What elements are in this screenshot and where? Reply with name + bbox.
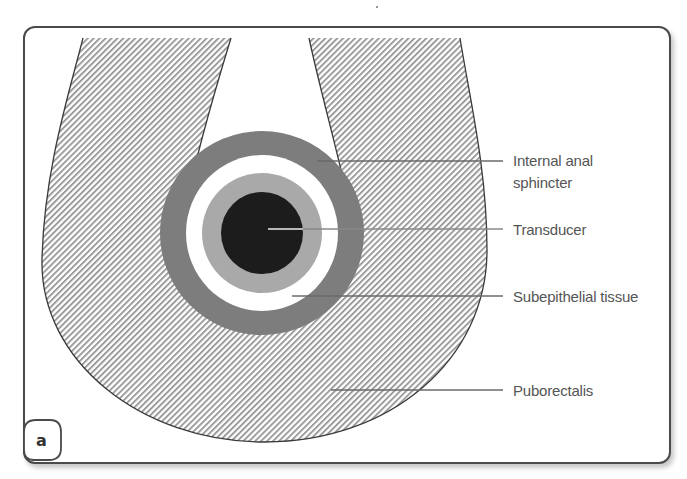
figure-stage: Internal anal sphincter Transducer Subep… [0,0,687,479]
label-subepithelial-tissue: Subepithelial tissue [513,288,638,305]
label-internal-anal-sphincter-line2: sphincter [513,174,572,191]
anatomy-diagram: Internal anal sphincter Transducer Subep… [0,0,687,479]
label-puborectalis: Puborectalis [513,382,593,399]
label-internal-anal-sphincter-line1: Internal anal [513,152,593,169]
transducer-core [221,192,303,274]
label-transducer: Transducer [513,221,587,238]
panel-label: a [36,431,47,450]
